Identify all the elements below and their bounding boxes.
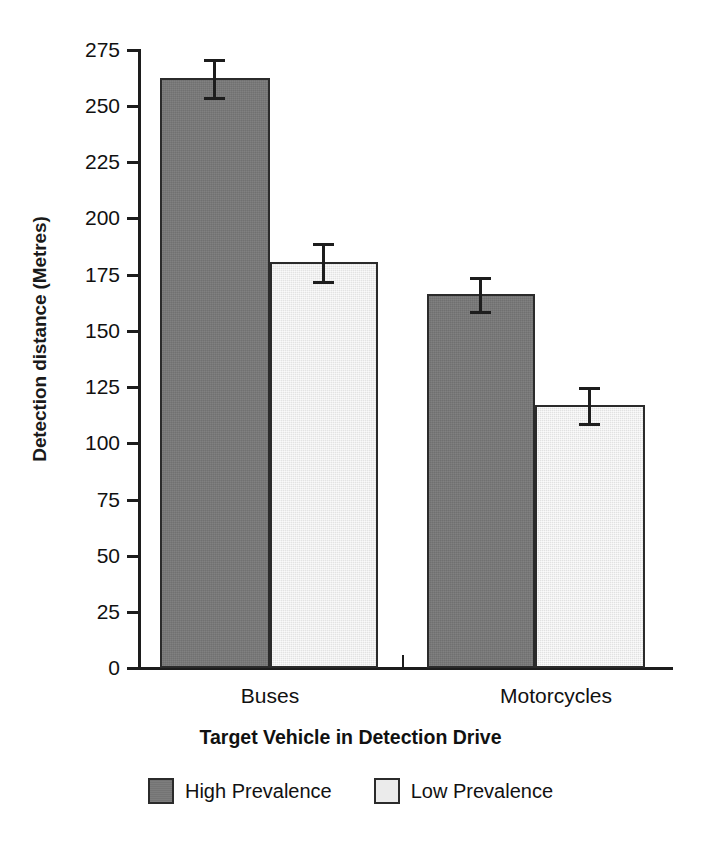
- y-axis-tick: [127, 49, 138, 52]
- legend-label: Low Prevalence: [411, 780, 553, 803]
- errorbar-cap-lower: [470, 311, 491, 314]
- x-axis-category-label-buses: Buses: [200, 684, 340, 708]
- errorbar-cap-lower: [204, 97, 225, 100]
- y-axis-tick: [127, 611, 138, 614]
- errorbar-buses-high-prevalence: [213, 59, 216, 97]
- errorbar-cap-upper: [470, 277, 491, 280]
- y-tick-label: 275: [60, 39, 120, 60]
- errorbar-cap-upper: [204, 59, 225, 62]
- y-tick-label: 150: [60, 320, 120, 341]
- y-tick-label: 50: [60, 545, 120, 566]
- y-axis-tick: [127, 442, 138, 445]
- bar-motorcycles-high-prevalence[interactable]: [427, 294, 535, 668]
- errorbar-cap-upper: [313, 243, 334, 246]
- y-axis-tick: [127, 161, 138, 164]
- y-tick-label: 125: [60, 376, 120, 397]
- errorbar-cap-lower: [579, 423, 600, 426]
- y-axis-tick: [127, 217, 138, 220]
- y-tick-label: 75: [60, 489, 120, 510]
- legend-item-high-prevalence[interactable]: High Prevalence: [148, 778, 332, 804]
- y-tick-label: 225: [60, 151, 120, 172]
- x-axis-category-label-motorcycles: Motorcycles: [466, 684, 646, 708]
- y-axis-tick: [127, 274, 138, 277]
- y-tick-label: 250: [60, 95, 120, 116]
- y-tick-label: 175: [60, 264, 120, 285]
- y-axis-tick: [127, 330, 138, 333]
- y-axis-tick: [127, 105, 138, 108]
- errorbar-cap-lower: [313, 281, 334, 284]
- y-axis-tick: [127, 386, 138, 389]
- y-axis-line: [138, 49, 141, 669]
- x-axis-category-separator-tick: [402, 655, 404, 668]
- y-tick-label: 25: [60, 601, 120, 622]
- y-axis-title: Detection distance (Metres): [29, 129, 51, 549]
- legend-item-low-prevalence[interactable]: Low Prevalence: [374, 778, 553, 804]
- legend: High Prevalence Low Prevalence: [0, 778, 701, 804]
- y-axis-tick-labels: 275 250 225 200 175 150 125 100 75 50 25…: [52, 0, 120, 844]
- errorbar-motorcycles-low-prevalence: [588, 387, 591, 423]
- y-tick-label: 100: [60, 432, 120, 453]
- x-axis-title: Target Vehicle in Detection Drive: [0, 726, 701, 749]
- y-tick-label: 200: [60, 207, 120, 228]
- y-axis-tick: [127, 555, 138, 558]
- legend-label: High Prevalence: [185, 780, 332, 803]
- bar-buses-low-prevalence[interactable]: [270, 262, 378, 668]
- errorbar-buses-low-prevalence: [322, 243, 325, 281]
- bar-buses-high-prevalence[interactable]: [160, 78, 270, 668]
- y-axis-tick: [127, 667, 138, 670]
- y-axis-tick: [127, 499, 138, 502]
- legend-swatch-icon: [374, 778, 400, 804]
- bar-motorcycles-low-prevalence[interactable]: [535, 405, 645, 668]
- legend-swatch-icon: [148, 778, 174, 804]
- bar-chart: Detection distance (Metres) 275 250 225 …: [0, 0, 701, 844]
- errorbar-motorcycles-high-prevalence: [479, 277, 482, 311]
- y-tick-label: 0: [60, 657, 120, 678]
- errorbar-cap-upper: [579, 387, 600, 390]
